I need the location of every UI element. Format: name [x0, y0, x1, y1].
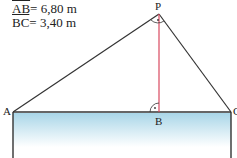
- side-ap: [13, 14, 159, 112]
- side-pc: [159, 14, 231, 112]
- triangle-diagram: [0, 0, 237, 158]
- label-c: C: [233, 105, 237, 117]
- label-a: A: [3, 105, 11, 117]
- label-b: B: [155, 115, 162, 127]
- water-region: [13, 113, 231, 147]
- label-p: P: [155, 0, 161, 12]
